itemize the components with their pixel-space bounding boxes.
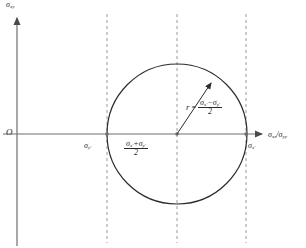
radius-num-sub-second: y′ (217, 102, 220, 107)
left-intercept-subscript: y′ (88, 145, 91, 150)
right-intercept-point (244, 132, 248, 136)
left-intercept-label: σy′ (84, 142, 91, 151)
center-num-sub-second: y′ (143, 143, 146, 148)
radius-fraction: σx′−σy′ 2 (198, 99, 222, 117)
center-expression-label: σx′+σy′ 2 (124, 140, 148, 158)
radius-denominator: 2 (198, 108, 222, 116)
figure-canvas (0, 0, 306, 248)
right-intercept-label: σx′ (248, 142, 255, 151)
y-axis-subscript: xy (10, 4, 14, 9)
left-intercept-point (105, 132, 109, 136)
y-axis-label: σxy (6, 1, 14, 10)
dashed-reference-lines (107, 14, 246, 243)
x-axis-label: σxx/σyy (268, 131, 287, 140)
radius-equals: = (192, 104, 197, 112)
center-fraction: σx′+σy′ 2 (124, 140, 148, 158)
mohrs-circle-figure: σxy σxx/σyy O σy′ σx′ σx′+σy′ 2 r = σx′−… (0, 0, 306, 248)
radius-expression-label: r = σx′−σy′ 2 (186, 99, 222, 117)
origin-label: O (6, 128, 13, 137)
center-denominator: 2 (124, 149, 148, 157)
radius-symbol: r (186, 103, 190, 112)
x-axis-subscript-second: yy (283, 134, 287, 139)
right-intercept-subscript: x′ (252, 145, 255, 150)
